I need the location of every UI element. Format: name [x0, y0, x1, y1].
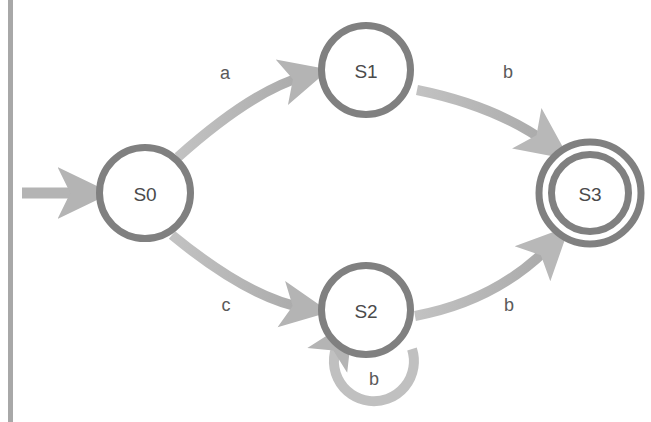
edge-path-s0-s2	[172, 235, 305, 308]
state-machine-diagram: a b c b b S0 S1	[0, 0, 651, 422]
fsm-canvas: a b c b b S0 S1	[0, 0, 651, 422]
state-node-s1[interactable]: S1	[322, 26, 411, 115]
edge-label-b-self: b	[369, 369, 379, 389]
state-s1-label: S1	[354, 61, 377, 82]
edge-path-s1-s3	[417, 90, 547, 143]
state-node-s0[interactable]: S0	[100, 148, 191, 239]
cropped-header-text	[86, 0, 366, 5]
transition-s1-s3: b	[417, 62, 547, 143]
edge-label-b-upper: b	[503, 62, 513, 82]
state-s3-label: S3	[578, 184, 601, 205]
state-s0-label: S0	[133, 184, 156, 205]
transition-s0-s1: a	[178, 63, 305, 157]
edge-path-s2-s3	[415, 246, 550, 316]
state-node-s2[interactable]: S2	[322, 266, 411, 355]
edge-label-a: a	[220, 63, 231, 83]
transition-s0-s2: c	[172, 235, 305, 315]
state-s2-label: S2	[354, 301, 377, 322]
edge-label-c: c	[222, 295, 231, 315]
state-node-s3[interactable]: S3	[539, 142, 641, 244]
transition-s2-s3: b	[415, 246, 550, 316]
edge-label-b-lower: b	[504, 295, 514, 315]
edge-path-s0-s1	[178, 76, 305, 157]
